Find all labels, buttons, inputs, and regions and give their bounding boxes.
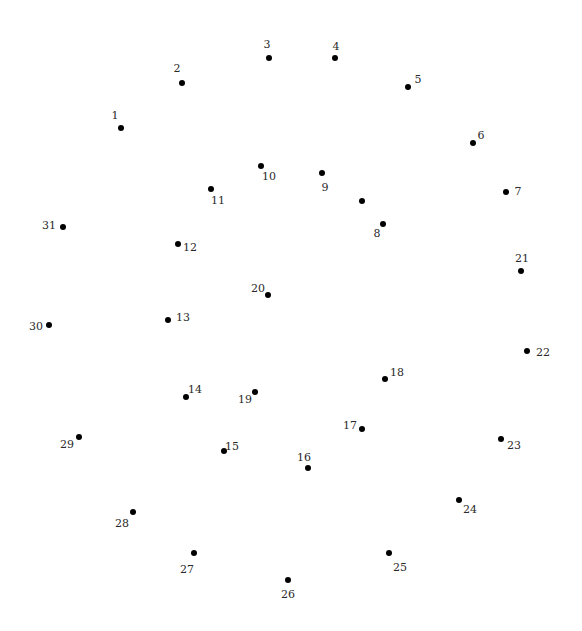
dot-label-19: 19 (238, 394, 252, 405)
dot-16 (305, 465, 311, 471)
dot-label-28: 28 (115, 518, 129, 529)
dot-6 (470, 140, 476, 146)
dot-label-11: 11 (211, 195, 225, 206)
dot-label-31: 31 (42, 220, 56, 231)
dot-26 (285, 577, 291, 583)
dot-label-17: 17 (343, 420, 357, 431)
dot-label-6: 6 (478, 130, 485, 141)
dot-8 (380, 221, 386, 227)
dot-label-14: 14 (188, 384, 202, 395)
dot-label-22: 22 (536, 347, 550, 358)
dot-20 (265, 292, 271, 298)
dot-2 (179, 80, 185, 86)
dot-label-16: 16 (297, 452, 311, 463)
dot-label-7: 7 (515, 186, 522, 197)
dot-label-30: 30 (29, 321, 43, 332)
dot-29 (76, 434, 82, 440)
dot-3 (266, 55, 272, 61)
dot-31 (60, 224, 66, 230)
dot-label-21: 21 (515, 253, 529, 264)
dot-18 (382, 376, 388, 382)
dot-4 (332, 55, 338, 61)
dot-22 (524, 348, 530, 354)
dot-label-20: 20 (251, 283, 265, 294)
dot-13 (165, 317, 171, 323)
dot-5 (405, 84, 411, 90)
dot-label-18: 18 (390, 367, 404, 378)
dot-label-4: 4 (333, 41, 340, 52)
dot-label-10: 10 (262, 171, 276, 182)
dot-25 (386, 550, 392, 556)
dot-28 (130, 509, 136, 515)
dot-9 (319, 170, 325, 176)
dot-label-15: 15 (225, 441, 239, 452)
dot-1 (118, 125, 124, 131)
dot-24 (456, 497, 462, 503)
dot-label-3: 3 (264, 39, 271, 50)
dot-21 (518, 268, 524, 274)
dot-label-2: 2 (174, 63, 181, 74)
dot-23 (498, 436, 504, 442)
dot-30 (46, 322, 52, 328)
dot-label-1: 1 (112, 110, 119, 121)
dot-label-26: 26 (281, 589, 295, 600)
dot-10 (258, 163, 264, 169)
dot-27 (191, 550, 197, 556)
dot-to-dot-puzzle: 1234567891011121314151617181920212223242… (0, 0, 582, 631)
dot-19 (252, 389, 258, 395)
dot-label-8: 8 (374, 228, 381, 239)
dot-label-29: 29 (60, 439, 74, 450)
dot-label-5: 5 (415, 74, 422, 85)
dot-label-23: 23 (507, 440, 521, 451)
dot-label-25: 25 (393, 562, 407, 573)
dot-label-12: 12 (183, 242, 197, 253)
dot-label-9: 9 (322, 182, 329, 193)
dot-11 (208, 186, 214, 192)
unlabeled-dot (359, 198, 365, 204)
dot-label-24: 24 (463, 504, 477, 515)
dot-label-27: 27 (180, 564, 194, 575)
dot-label-13: 13 (176, 312, 190, 323)
dot-17 (359, 426, 365, 432)
dot-7 (503, 189, 509, 195)
dot-12 (175, 241, 181, 247)
